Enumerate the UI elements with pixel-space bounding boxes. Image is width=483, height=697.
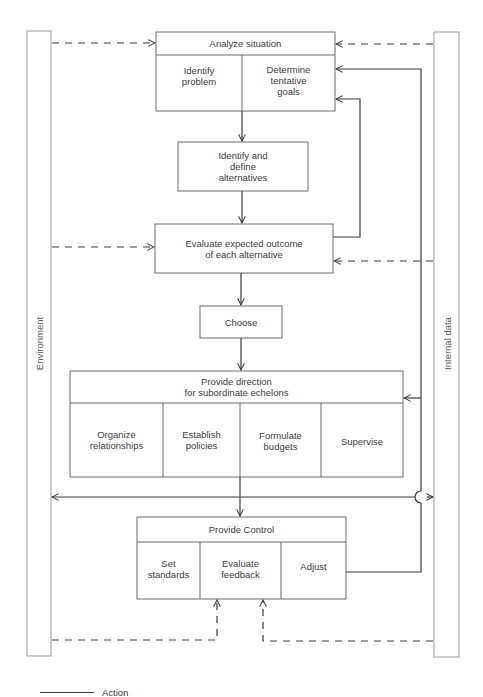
evaluate-label: Evaluate expected outcome of each altern… [155,224,333,273]
formulate-budgets-cell: Formulate budgets [240,427,321,455]
identify-problem-cell: Identify problem [156,58,242,94]
flow-diagram [0,0,483,697]
establish-policies-cell: Establish policies [163,426,240,454]
evaluate-feedback-cell: Evaluate feedback [200,556,281,582]
determine-goals-cell: Determine tentative goals [242,58,335,102]
legend-action-label: Action [102,687,128,697]
direction-title: Provide direction for subordinate echelo… [70,371,403,403]
supervise-cell: Supervise [321,427,403,455]
alternatives-label: Identify and define alternatives [178,142,308,191]
control-title: Provide Control [137,517,346,542]
analyze-situation-title: Analyze situation [156,32,335,55]
adjust-cell: Adjust [281,556,346,576]
choose-label: Choose [200,306,282,338]
environment-label: Environment [34,315,45,373]
legend: Action [40,687,128,697]
set-standards-cell: Set standards [137,556,200,582]
legend-solid-line [40,692,94,693]
internal-data-label: Internal data [442,312,453,376]
organize-relationships-cell: Organize relationships [70,426,163,454]
